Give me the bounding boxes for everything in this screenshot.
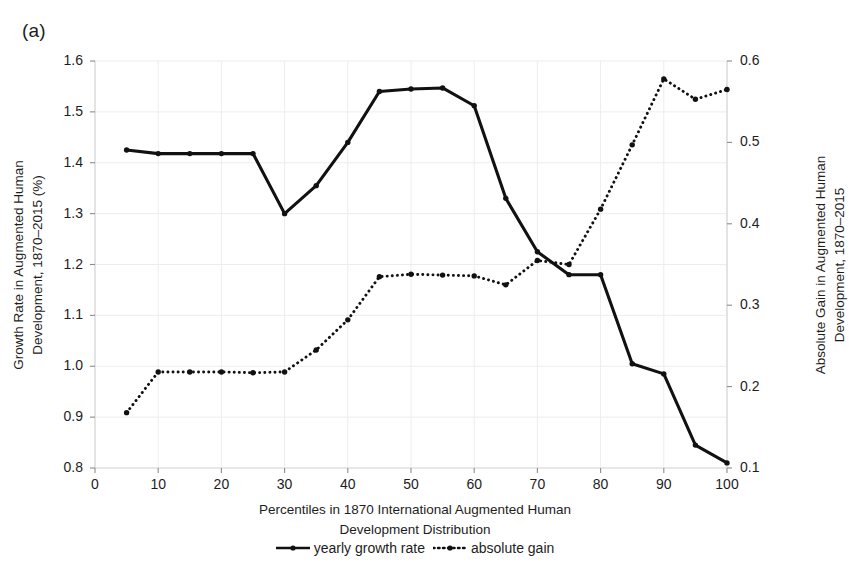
data-point-yearly-growth-rate (408, 86, 413, 91)
legend-item-absolute-gain: absolute gain (433, 540, 554, 556)
y-tick-label-left: 1.1 (43, 306, 83, 322)
y-tick-label-left: 1.6 (43, 52, 83, 68)
data-point-yearly-growth-rate (124, 147, 129, 152)
y-tick-label-left: 1.4 (43, 154, 83, 170)
data-point-yearly-growth-rate (282, 211, 287, 216)
data-point-yearly-growth-rate (535, 249, 540, 254)
x-axis-title-line2: Development Distribution (170, 520, 660, 540)
data-point-absolute-gain (693, 97, 698, 102)
series-line-absolute-gain (127, 79, 727, 413)
y-tick-label-left: 1.2 (43, 256, 83, 272)
data-point-absolute-gain (630, 142, 635, 147)
y-tick-label-right: 0.5 (740, 133, 780, 149)
y-tick-label-left: 0.9 (43, 408, 83, 424)
x-tick-label: 70 (515, 476, 559, 492)
data-point-absolute-gain (535, 258, 540, 263)
data-point-yearly-growth-rate (219, 151, 224, 156)
data-point-yearly-growth-rate (156, 151, 161, 156)
x-tick-label: 10 (136, 476, 180, 492)
data-point-yearly-growth-rate (345, 140, 350, 145)
data-point-absolute-gain (408, 272, 413, 277)
y-tick-label-left: 1.3 (43, 205, 83, 221)
data-point-yearly-growth-rate (187, 151, 192, 156)
data-point-absolute-gain (314, 347, 319, 352)
x-tick-label: 30 (263, 476, 307, 492)
y-tick-label-left: 1.0 (43, 357, 83, 373)
legend-label-1: absolute gain (470, 540, 554, 556)
data-point-absolute-gain (566, 262, 571, 267)
data-point-absolute-gain (440, 272, 445, 277)
right-axis-title-line2: Development, 1870–2015 (830, 100, 849, 430)
left-axis-title: Growth Rate in Augmented Human Developme… (9, 100, 47, 430)
legend-swatch-dotted-icon (433, 542, 467, 554)
legend-label-0: yearly growth rate (313, 540, 425, 556)
data-point-absolute-gain (724, 87, 729, 92)
data-point-yearly-growth-rate (661, 371, 666, 376)
x-axis-title-line1: Percentiles in 1870 International Augmen… (170, 500, 660, 520)
data-point-absolute-gain (503, 282, 508, 287)
data-point-yearly-growth-rate (377, 89, 382, 94)
x-tick-label: 100 (705, 476, 749, 492)
legend-swatch-solid-icon (276, 542, 310, 554)
data-point-absolute-gain (124, 410, 129, 415)
data-point-absolute-gain (187, 369, 192, 374)
data-point-yearly-growth-rate (503, 196, 508, 201)
x-tick-label: 0 (73, 476, 117, 492)
right-axis-title: Absolute Gain in Augmented Human Develop… (811, 100, 849, 430)
chart-legend: yearly growth rate absolute gain (0, 540, 830, 556)
data-point-absolute-gain (377, 274, 382, 279)
x-axis-title: Percentiles in 1870 International Augmen… (170, 500, 660, 540)
data-point-yearly-growth-rate (630, 361, 635, 366)
data-point-absolute-gain (472, 273, 477, 278)
data-point-yearly-growth-rate (440, 85, 445, 90)
data-point-absolute-gain (661, 76, 666, 81)
x-tick-label: 50 (389, 476, 433, 492)
data-point-yearly-growth-rate (693, 442, 698, 447)
data-point-yearly-growth-rate (472, 103, 477, 108)
y-tick-label-right: 0.6 (740, 52, 780, 68)
y-tick-label-right: 0.1 (740, 459, 780, 475)
x-tick-label: 90 (642, 476, 686, 492)
data-point-yearly-growth-rate (566, 272, 571, 277)
data-point-yearly-growth-rate (724, 460, 729, 465)
data-point-absolute-gain (345, 317, 350, 322)
panel-label: (a) (22, 20, 46, 42)
y-tick-label-left: 1.5 (43, 103, 83, 119)
left-axis-title-line1: Growth Rate in Augmented Human (9, 100, 28, 430)
legend-item-yearly-growth-rate: yearly growth rate (276, 540, 425, 556)
y-tick-label-right: 0.2 (740, 378, 780, 394)
data-point-absolute-gain (156, 369, 161, 374)
data-point-absolute-gain (250, 370, 255, 375)
x-tick-label: 60 (452, 476, 496, 492)
y-tick-label-left: 0.8 (43, 459, 83, 475)
data-point-absolute-gain (598, 206, 603, 211)
data-point-yearly-growth-rate (250, 151, 255, 156)
x-tick-label: 40 (326, 476, 370, 492)
data-point-yearly-growth-rate (598, 272, 603, 277)
y-tick-label-right: 0.4 (740, 215, 780, 231)
x-tick-label: 20 (199, 476, 243, 492)
data-point-absolute-gain (219, 369, 224, 374)
data-point-yearly-growth-rate (314, 183, 319, 188)
data-point-absolute-gain (282, 369, 287, 374)
right-axis-title-line1: Absolute Gain in Augmented Human (811, 100, 830, 430)
x-tick-label: 80 (579, 476, 623, 492)
y-tick-label-right: 0.3 (740, 296, 780, 312)
